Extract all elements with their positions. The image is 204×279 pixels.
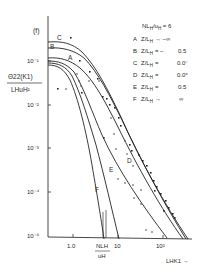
x-special-tick-label: NLH uH	[95, 243, 110, 259]
svg-text:0.5: 0.5	[178, 84, 187, 90]
spectrum-chart: (f) 10⁻¹ 10⁻² 10⁻³ 10⁻⁴ 10⁻⁵ Θ22(K1) LHu…	[0, 0, 204, 279]
legend-item-d: D Z/LH= 0.0⁺	[133, 72, 188, 80]
curve-label-b: B	[50, 43, 54, 50]
y-tick-label: 10⁻²	[27, 102, 39, 108]
svg-text:Z/LH=: Z/LH=	[141, 60, 159, 68]
x-axis-label: LHK1 →	[166, 258, 189, 264]
svg-text:D: D	[133, 72, 138, 78]
curve-label-f: F	[95, 186, 99, 193]
legend: NLH/uH = 6 A Z/LH→ −∞ B Z/LH= − 0.5 C Z/…	[133, 23, 188, 104]
svg-text:A: A	[133, 36, 137, 42]
svg-text:uH: uH	[98, 253, 106, 259]
svg-text:0.0⁻: 0.0⁻	[177, 60, 188, 66]
curve-e	[48, 63, 119, 239]
svg-text:F: F	[133, 96, 137, 102]
y-tick-label: 10⁻³	[27, 145, 39, 151]
x-tick-label: 10	[114, 243, 121, 249]
scatter-crosses	[65, 73, 153, 233]
panel-label: (f)	[33, 27, 40, 35]
legend-item-c: C Z/LH= 0.0⁻	[133, 60, 188, 68]
x-tick-label: 1.0	[67, 243, 76, 249]
y-axis-label: Θ22(K1) LHuH²	[7, 73, 42, 93]
svg-text:Z/LH= −: Z/LH= −	[141, 48, 164, 56]
curve-label-d: D	[127, 157, 132, 164]
legend-item-a: A Z/LH→ −∞	[133, 36, 170, 44]
svg-text:Z/LH=: Z/LH=	[141, 84, 159, 92]
svg-text:NLH: NLH	[96, 243, 108, 249]
y-tick-label: 10⁻¹	[27, 58, 39, 64]
svg-text:Θ22(K1): Θ22(K1)	[8, 73, 33, 81]
svg-text:0.0⁺: 0.0⁺	[177, 72, 188, 78]
x-axis	[48, 237, 192, 239]
svg-text:E: E	[133, 84, 137, 90]
legend-header: NLH/uH = 6	[142, 23, 172, 31]
y-tick-label: 10⁻⁴	[27, 189, 40, 195]
curve-label-c: C	[57, 34, 62, 41]
legend-item-f: F Z/LH→ ∞	[133, 96, 183, 104]
svg-text:0.5: 0.5	[178, 48, 187, 54]
svg-text:C: C	[133, 60, 138, 66]
svg-text:LHuH²: LHuH²	[11, 86, 31, 93]
x-tick-labels: 1.0 10 10²	[67, 243, 165, 249]
svg-text:∞: ∞	[179, 96, 183, 102]
svg-text:Z/LH→: Z/LH→	[141, 96, 161, 104]
curves	[48, 42, 188, 239]
legend-item-e: E Z/LH= 0.5	[133, 84, 187, 92]
curve-b	[48, 48, 186, 239]
svg-text:Z/LH→ −∞: Z/LH→ −∞	[141, 36, 170, 44]
y-tick-label: 10⁻⁵	[27, 233, 40, 239]
svg-text:B: B	[133, 48, 137, 54]
x-tick-label: 10²	[156, 243, 165, 249]
svg-text:Z/LH=: Z/LH=	[141, 72, 159, 80]
legend-item-b: B Z/LH= − 0.5	[133, 48, 187, 56]
curve-f	[48, 65, 104, 239]
curve-label-a: A	[68, 54, 73, 61]
curve-label-e: E	[109, 166, 114, 173]
